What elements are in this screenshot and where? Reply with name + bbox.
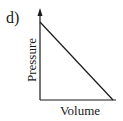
x-axis-label: Volume	[60, 104, 100, 117]
pressure-volume-line	[40, 22, 113, 100]
y-axis-label: Pressure	[25, 38, 38, 82]
y-axis-arrow-icon	[38, 8, 43, 16]
